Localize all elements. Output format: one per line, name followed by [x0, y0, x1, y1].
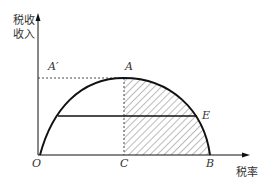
label-a: A [124, 60, 133, 73]
y-axis-label-line1: 税收 [13, 13, 35, 27]
x-axis-arrow-icon [242, 153, 250, 158]
label-e: E [201, 109, 210, 122]
label-a-prime: A′ [47, 60, 59, 73]
laffer-curve-diagram: 税收 收入 税率 A′ A E O C B [0, 0, 273, 184]
y-axis-arrow-icon [36, 13, 41, 21]
x-axis-label: 税率 [236, 165, 258, 179]
label-b: B [205, 157, 214, 170]
label-o: O [32, 157, 41, 170]
y-axis-label-line2: 收入 [13, 27, 35, 41]
label-c: C [120, 157, 129, 170]
